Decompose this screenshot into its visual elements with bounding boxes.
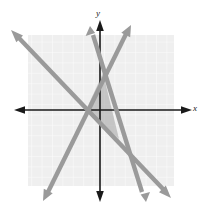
- y-axis-label: y: [96, 9, 100, 18]
- x-axis-arrow-left: [14, 106, 25, 114]
- coordinate-plane-graphic: [0, 0, 207, 216]
- line-3-arrow-upper-left: [86, 26, 96, 36]
- y-axis-arrow-up: [96, 20, 104, 31]
- graph-figure: y x: [0, 0, 207, 216]
- x-axis-label: x: [193, 104, 197, 113]
- x-axis-arrow-right: [181, 106, 192, 114]
- line-3-arrow-lower-right: [141, 192, 150, 202]
- y-axis-arrow-down: [96, 191, 104, 202]
